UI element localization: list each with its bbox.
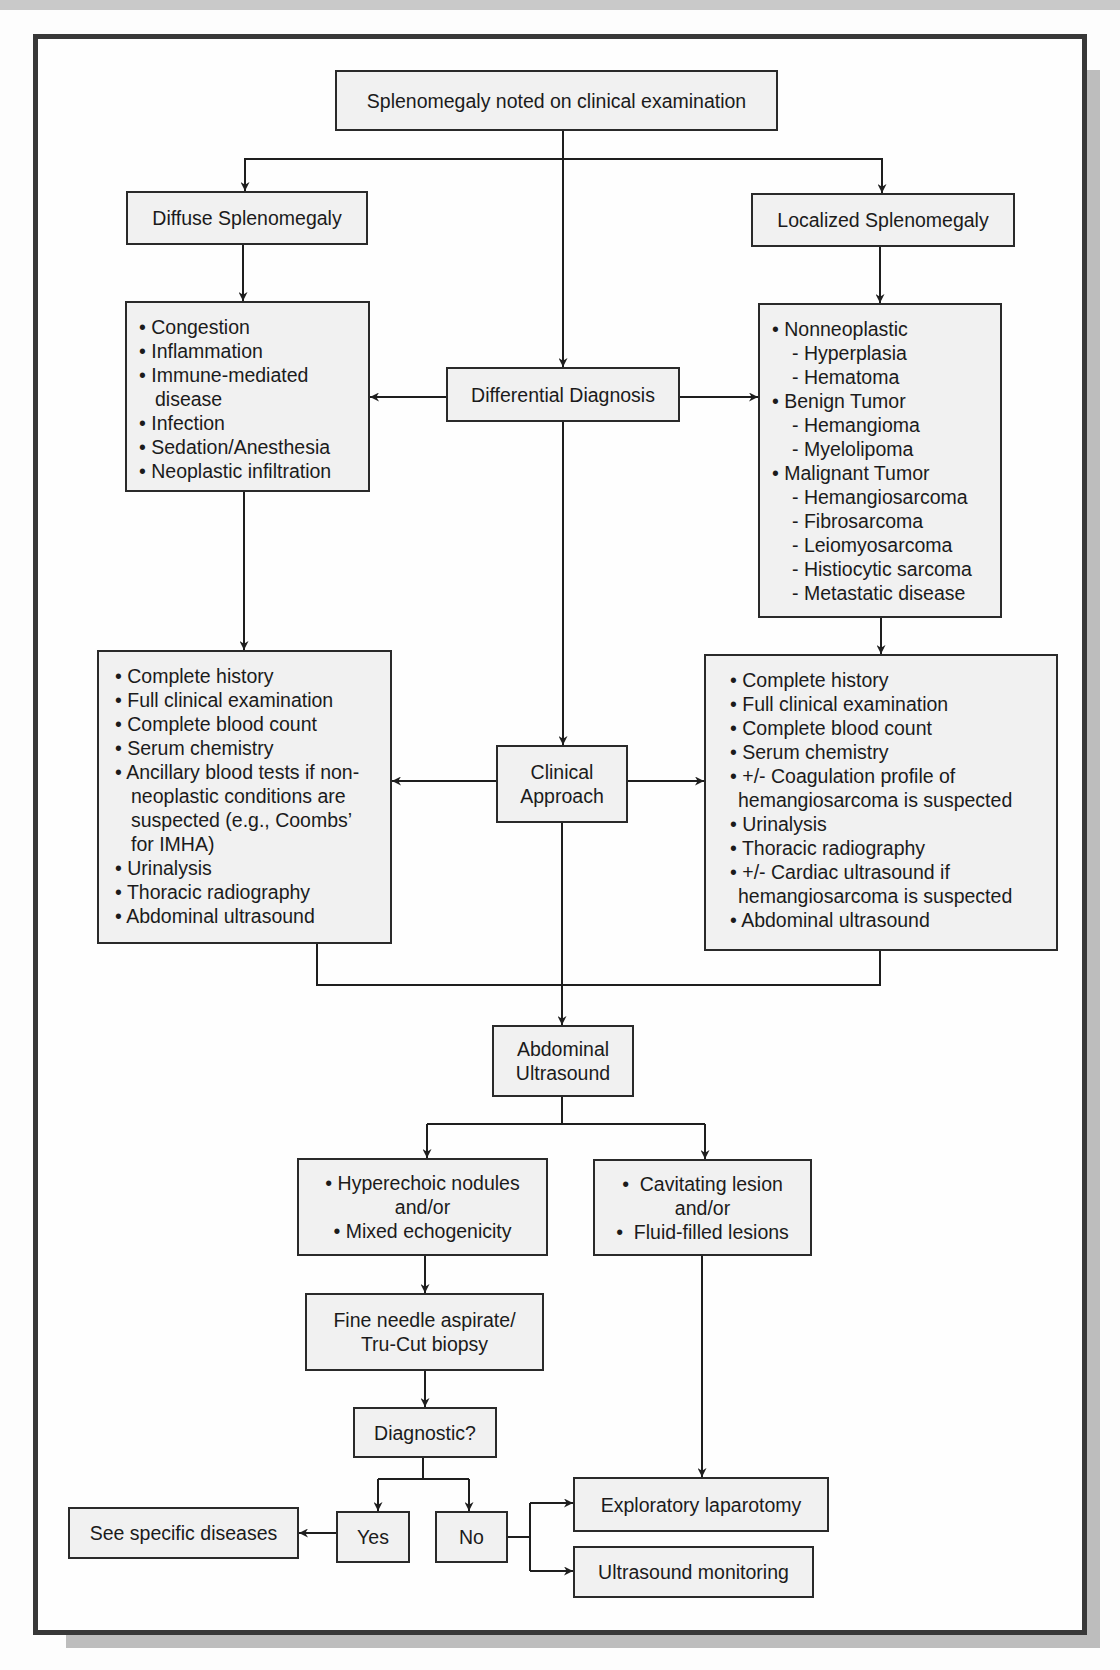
list-item: • Infection [139,411,358,435]
hyperechoic-line1: • Hyperechoic nodules [325,1171,519,1195]
hyperechoic-node: • Hyperechoic nodules and/or • Mixed ech… [297,1158,548,1256]
clinical-approach-line1: Clinical [531,760,594,784]
no-node: No [435,1511,508,1563]
list-item: • Complete history [730,668,1046,692]
start-label: Splenomegaly noted on clinical examinati… [367,89,746,113]
list-item: - Hemangiosarcoma [772,485,990,509]
list-item: • Inflammation [139,339,358,363]
exploratory-label: Exploratory laparotomy [601,1493,802,1517]
list-item: - Hematoma [772,365,990,389]
see-specific-node: See specific diseases [68,1507,299,1559]
list-item: • Sedation/Anesthesia [139,435,358,459]
list-item: • Abdominal ultrasound [730,908,1046,932]
yes-label: Yes [357,1525,389,1549]
monitoring-label: Ultrasound monitoring [598,1560,789,1584]
clinical-approach-node: Clinical Approach [496,745,628,823]
differential-diagnosis-node: Differential Diagnosis [446,367,680,422]
cavitating-line1: • Cavitating lesion [622,1172,783,1196]
list-item: • Serum chemistry [115,736,380,760]
diagnostic-node: Diagnostic? [353,1407,497,1458]
list-item: • Full clinical examination [730,692,1046,716]
differential-label: Differential Diagnosis [471,383,655,407]
hyperechoic-line2: and/or [395,1195,450,1219]
list-item: suspected (e.g., Coombs’ [115,808,380,832]
exploratory-laparotomy-node: Exploratory laparotomy [573,1477,829,1532]
ultrasound-line2: Ultrasound [516,1061,610,1085]
list-item: • +/- Cardiac ultrasound if [730,860,1046,884]
list-item: disease [139,387,358,411]
list-item: - Leiomyosarcoma [772,533,990,557]
list-item: • Neoplastic infiltration [139,459,358,483]
localized-causes-list: • Nonneoplastic - Hyperplasia - Hematoma… [758,303,1002,618]
clinical-approach-line2: Approach [520,784,603,808]
list-item: • Complete history [115,664,380,688]
list-item: • Complete blood count [730,716,1046,740]
list-item: • Benign Tumor [772,389,990,413]
list-item: • Complete blood count [115,712,380,736]
list-item: for IMHA) [115,832,380,856]
list-item: • Full clinical examination [115,688,380,712]
cavitating-line2: and/or [675,1196,730,1220]
list-item: • Urinalysis [730,812,1046,836]
fna-biopsy-node: Fine needle aspirate/ Tru-Cut biopsy [305,1293,544,1371]
abdominal-ultrasound-node: Abdominal Ultrasound [492,1025,634,1097]
list-item: • Serum chemistry [730,740,1046,764]
list-item: - Histiocytic sarcoma [772,557,990,581]
list-item: hemangiosarcoma is suspected [730,788,1046,812]
list-item: • Urinalysis [115,856,380,880]
localized-label: Localized Splenomegaly [777,208,988,232]
list-item: - Myelolipoma [772,437,990,461]
yes-node: Yes [336,1511,410,1563]
list-item: • Thoracic radiography [115,880,380,904]
list-item: • Nonneoplastic [772,317,990,341]
hyperechoic-line3: • Mixed echogenicity [333,1219,511,1243]
list-item: • Malignant Tumor [772,461,990,485]
list-item: • Congestion [139,315,358,339]
list-item: • Immune-mediated [139,363,358,387]
cavitating-line3: • Fluid-filled lesions [616,1220,789,1244]
list-item: • Ancillary blood tests if non- [115,760,380,784]
list-item: hemangiosarcoma is suspected [730,884,1046,908]
diffuse-label: Diffuse Splenomegaly [152,206,341,230]
start-node: Splenomegaly noted on clinical examinati… [335,70,778,131]
diffuse-node: Diffuse Splenomegaly [126,191,368,245]
diffuse-workup-list: • Complete history • Full clinical exami… [97,650,392,944]
localized-node: Localized Splenomegaly [751,193,1015,247]
localized-workup-list: • Complete history • Full clinical exami… [704,654,1058,951]
diffuse-causes-list: • Congestion • Inflammation • Immune-med… [125,301,370,492]
fna-line2: Tru-Cut biopsy [361,1332,488,1356]
list-item: - Hemangioma [772,413,990,437]
ultrasound-monitoring-node: Ultrasound monitoring [573,1546,814,1598]
list-item: - Fibrosarcoma [772,509,990,533]
no-label: No [459,1525,484,1549]
fna-line1: Fine needle aspirate/ [333,1308,515,1332]
cavitating-node: • Cavitating lesion and/or • Fluid-fille… [593,1159,812,1256]
ultrasound-line1: Abdominal [517,1037,609,1061]
list-item: • Abdominal ultrasound [115,904,380,928]
list-item: neoplastic conditions are [115,784,380,808]
list-item: • +/- Coagulation profile of [730,764,1046,788]
list-item: - Metastatic disease [772,581,990,605]
diagnostic-label: Diagnostic? [374,1421,476,1445]
see-specific-label: See specific diseases [90,1521,278,1545]
list-item: • Thoracic radiography [730,836,1046,860]
list-item: - Hyperplasia [772,341,990,365]
